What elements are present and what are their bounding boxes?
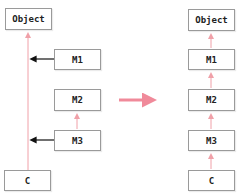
left-box-c-label: C	[25, 176, 30, 186]
right-box-object: Object	[188, 9, 235, 31]
left-box-m2: M2	[54, 89, 101, 111]
left-box-m3: M3	[54, 130, 101, 151]
right-box-m1: M1	[188, 49, 235, 70]
right-box-m1-label: M1	[206, 55, 217, 65]
right-box-m3-label: M3	[206, 136, 217, 146]
left-box-m1: M1	[54, 49, 101, 70]
left-box-object: Object	[5, 8, 52, 30]
left-box-object-label: Object	[12, 14, 45, 24]
right-box-object-label: Object	[195, 15, 228, 25]
left-box-c: C	[4, 170, 51, 191]
left-box-m1-label: M1	[72, 55, 83, 65]
right-box-m2: M2	[188, 89, 235, 111]
right-box-c-label: C	[209, 176, 214, 186]
right-box-m3: M3	[188, 130, 235, 151]
right-box-c: C	[188, 170, 235, 191]
right-box-m2-label: M2	[206, 95, 217, 105]
left-box-m2-label: M2	[72, 95, 83, 105]
left-box-m3-label: M3	[72, 136, 83, 146]
